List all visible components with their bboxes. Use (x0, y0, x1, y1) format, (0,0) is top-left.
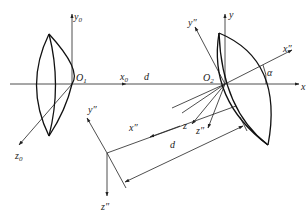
label-d-axis: d (144, 71, 150, 82)
frame-base-line (107, 153, 126, 188)
optics-diagram: y0 z0 O1 x0 d O2 y x y″ x″ α z z″ y″ x″ … (0, 0, 306, 219)
label-z0: z0 (14, 150, 23, 163)
label-d-dimension: d (170, 139, 176, 150)
fan-line-1 (182, 84, 225, 113)
label-y: y (228, 9, 234, 20)
z-axis (192, 84, 225, 124)
z0-axis (19, 84, 72, 145)
label-z-dd: z″ (195, 125, 205, 136)
label-O2: O2 (203, 72, 214, 85)
label-x-dd-top: x″ (282, 43, 292, 54)
left-lens (37, 34, 75, 136)
x-dd-frame-arrow (150, 126, 180, 137)
label-x0: x0 (119, 71, 128, 84)
label-x: x (300, 81, 306, 92)
x-dd-axis (225, 50, 292, 84)
label-y0: y0 (73, 11, 82, 24)
y-dd-frame-axis (87, 118, 107, 153)
label-z: z (182, 120, 187, 131)
d-dimension-line (125, 126, 243, 182)
label-y-dd-top: y″ (187, 17, 197, 28)
label-alpha: α (267, 67, 273, 78)
label-O1: O1 (76, 72, 87, 85)
label-z-dd-frame: z″ (100, 201, 110, 212)
label-x-dd-frame: x″ (128, 122, 138, 133)
label-y-dd-frame: y″ (87, 104, 97, 115)
